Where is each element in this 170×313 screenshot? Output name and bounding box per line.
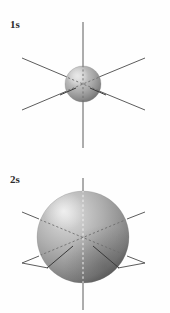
axis-diagonal-left-upper-2s (22, 212, 39, 219)
orbital-panel-2s: 2s (0, 160, 170, 313)
orbital-panel-1s: 1s (0, 0, 170, 160)
axis-front-right-outer-2s (118, 263, 145, 268)
axes-1s (0, 0, 170, 160)
orbital-figure: 1s (0, 0, 170, 313)
axis-front-left-outer-2s (22, 263, 48, 268)
axis-diagonal-right-upper-1s (99, 58, 145, 77)
axis-diagonal-right-lower-1s (99, 91, 145, 110)
axis-diagonal-left-upper-1s (22, 58, 67, 77)
axes-2s (0, 160, 170, 313)
axis-diagonal-right-upper-2s (127, 212, 145, 219)
axis-diagonal-left-lower-2s (22, 256, 39, 263)
axis-diagonal-left-lower-1s (22, 91, 67, 110)
axis-diagonal-right-lower-2s (127, 256, 145, 263)
